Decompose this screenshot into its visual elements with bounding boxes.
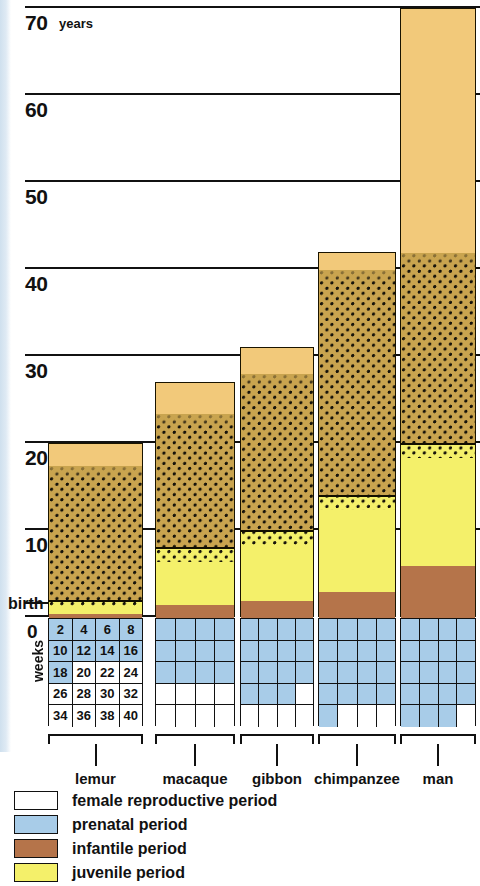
prenatal-cell: 32 bbox=[120, 684, 143, 706]
prenatal-cell bbox=[156, 705, 176, 727]
y-axis-tick-60: 60 bbox=[25, 98, 47, 122]
segment-man-juvenile bbox=[401, 444, 475, 566]
prenatal-cell bbox=[241, 641, 259, 663]
segment-man-adult bbox=[401, 9, 475, 253]
prenatal-cell: 38 bbox=[96, 705, 120, 727]
prenatal-cell: 14 bbox=[96, 641, 120, 663]
prenatal-cell bbox=[296, 641, 313, 663]
y-axis-tick-30: 30 bbox=[25, 359, 47, 383]
reproductive-dot-overlay-macaque bbox=[156, 414, 234, 563]
prenatal-cell bbox=[259, 619, 277, 641]
prenatal-cell bbox=[278, 641, 296, 663]
birth-tick-line bbox=[25, 602, 50, 604]
bracket-stem-lemur bbox=[95, 744, 97, 766]
bracket-gibbon bbox=[240, 734, 314, 744]
bar-chimpanzee bbox=[318, 252, 396, 617]
prenatal-grid-row bbox=[319, 641, 395, 663]
prenatal-cell bbox=[156, 662, 176, 684]
prenatal-cell: 24 bbox=[120, 662, 143, 684]
weeks-axis-caption: weeks bbox=[30, 640, 46, 682]
prenatal-cell bbox=[401, 705, 420, 727]
y-axis-tick-20: 20 bbox=[25, 446, 47, 470]
prenatal-cell: 20 bbox=[73, 662, 97, 684]
y-axis-tick-40: 40 bbox=[25, 272, 47, 296]
legend-label-juvenile: juvenile period bbox=[72, 862, 185, 883]
prenatal-cell: 28 bbox=[73, 684, 97, 706]
prenatal-cell bbox=[259, 641, 277, 663]
prenatal-grid-row: 34363840 bbox=[49, 705, 142, 727]
prenatal-cell bbox=[241, 662, 259, 684]
prenatal-cell bbox=[338, 641, 357, 663]
segment-macaque-adult bbox=[156, 383, 234, 413]
species-label-man: man bbox=[383, 770, 480, 787]
prenatal-cell bbox=[420, 705, 439, 727]
prenatal-cell bbox=[278, 684, 296, 706]
prenatal-grid-row bbox=[401, 641, 475, 663]
bracket-chimpanzee bbox=[318, 734, 396, 744]
prenatal-grid-row: 2468 bbox=[49, 619, 142, 641]
prenatal-cell bbox=[401, 641, 420, 663]
legend-item-female-reproductive: female reproductive period bbox=[14, 790, 480, 812]
prenatal-cell bbox=[420, 662, 439, 684]
prenatal-cell: 18 bbox=[49, 662, 73, 684]
prenatal-cell: 16 bbox=[120, 641, 143, 663]
prenatal-cell bbox=[241, 619, 259, 641]
prenatal-cell bbox=[215, 662, 234, 684]
prenatal-grid-row bbox=[241, 705, 313, 727]
segment-gibbon-adult bbox=[241, 348, 313, 374]
prenatal-grid-row bbox=[241, 662, 313, 684]
reproductive-dot-overlay-man bbox=[401, 253, 475, 458]
reproductive-start-line-lemur bbox=[49, 600, 142, 602]
legend-swatch-juvenile bbox=[14, 863, 58, 882]
prenatal-cell bbox=[457, 662, 475, 684]
prenatal-cell bbox=[241, 684, 259, 706]
prenatal-cell bbox=[176, 705, 196, 727]
segment-gibbon-infantile bbox=[241, 601, 313, 618]
prenatal-grid-gibbon bbox=[240, 618, 314, 726]
prenatal-grid-row bbox=[241, 619, 313, 641]
prenatal-cell bbox=[401, 684, 420, 706]
bracket-stem-man bbox=[437, 744, 439, 766]
reproductive-start-line-gibbon bbox=[241, 530, 313, 532]
y-axis-unit-label: years bbox=[59, 16, 93, 31]
reproductive-dot-overlay-gibbon bbox=[241, 374, 313, 545]
prenatal-cell bbox=[377, 619, 395, 641]
prenatal-cell bbox=[176, 641, 196, 663]
segment-macaque-infantile bbox=[156, 605, 234, 618]
prenatal-cell bbox=[296, 619, 313, 641]
bracket-man bbox=[400, 734, 476, 744]
prenatal-grid-row bbox=[241, 641, 313, 663]
prenatal-cell bbox=[420, 641, 439, 663]
y-axis-tick-70: 70 bbox=[25, 11, 47, 35]
prenatal-cell bbox=[358, 641, 377, 663]
prenatal-cell bbox=[420, 619, 439, 641]
legend-label-female-reproductive: female reproductive period bbox=[72, 790, 277, 811]
bar-macaque bbox=[155, 382, 235, 617]
segment-chimpanzee-infantile bbox=[319, 592, 395, 618]
prenatal-cell bbox=[377, 684, 395, 706]
reproductive-start-line-man bbox=[401, 443, 475, 445]
prenatal-grid-row: 18202224 bbox=[49, 662, 142, 684]
prenatal-cell bbox=[457, 619, 475, 641]
prenatal-cell bbox=[439, 662, 458, 684]
prenatal-cell bbox=[176, 619, 196, 641]
chart-legend: female reproductive periodprenatal perio… bbox=[14, 790, 480, 886]
prenatal-cell bbox=[296, 684, 313, 706]
prenatal-cell bbox=[457, 705, 475, 727]
prenatal-cell bbox=[401, 662, 420, 684]
prenatal-cell bbox=[319, 641, 338, 663]
prenatal-cell bbox=[377, 662, 395, 684]
legend-item-prenatal: prenatal period bbox=[14, 814, 480, 836]
prenatal-cell: 36 bbox=[73, 705, 97, 727]
prenatal-grid-row bbox=[401, 684, 475, 706]
prenatal-grid-row bbox=[401, 705, 475, 727]
prenatal-cell bbox=[215, 619, 234, 641]
prenatal-cell bbox=[296, 705, 313, 727]
prenatal-cell bbox=[358, 619, 377, 641]
bracket-macaque bbox=[155, 734, 235, 744]
prenatal-cell bbox=[319, 684, 338, 706]
segment-lemur-infantile bbox=[49, 614, 142, 618]
prenatal-grid-row bbox=[156, 684, 234, 706]
prenatal-cell bbox=[319, 705, 338, 727]
reproductive-dot-overlay-lemur bbox=[49, 466, 142, 607]
